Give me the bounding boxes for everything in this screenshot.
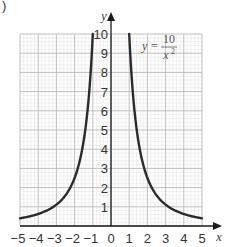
y-tick-label: 2: [101, 181, 108, 196]
y-tick-label: 5: [101, 123, 108, 138]
graph-reciprocal-square: −5−4−3−2−1012345 12345678910 y x y = 10 …: [0, 0, 229, 247]
equation-numerator: 10: [163, 32, 175, 46]
y-tick-labels: 12345678910: [94, 27, 108, 215]
y-tick-label: 7: [101, 85, 108, 100]
x-tick-label: 4: [180, 231, 187, 246]
x-tick-label: −1: [83, 231, 98, 246]
x-tick-label: 1: [126, 231, 133, 246]
equation-label: y = 10 x 2: [141, 32, 177, 62]
x-tick-label: 0: [107, 231, 114, 246]
y-tick-label: 8: [101, 65, 108, 80]
x-tick-label: −2: [65, 231, 80, 246]
x-tick-label: −3: [47, 231, 62, 246]
y-tick-label: 1: [101, 200, 108, 215]
y-tick-label: 3: [101, 161, 108, 176]
x-tick-label: 5: [198, 231, 205, 246]
part-label: ): [2, 0, 6, 13]
equation-equals: =: [151, 39, 158, 53]
axes: [20, 12, 222, 230]
x-tick-label: −4: [29, 231, 44, 246]
y-tick-label: 6: [101, 104, 108, 119]
y-tick-label: 4: [101, 142, 108, 157]
x-axis-label: x: [215, 230, 222, 244]
y-axis-arrow-icon: [107, 12, 115, 21]
y-axis-label: y: [100, 9, 107, 23]
equation-denominator-var: x: [162, 48, 169, 62]
x-tick-label: 2: [144, 231, 151, 246]
x-axis-arrow-icon: [213, 222, 222, 230]
y-tick-label: 9: [101, 46, 108, 61]
equation-denominator-exp: 2: [171, 47, 175, 56]
x-tick-label: −5: [11, 231, 26, 246]
y-tick-label: 10: [94, 27, 108, 42]
equation-lhs: y: [141, 39, 148, 53]
x-tick-label: 3: [162, 231, 169, 246]
x-tick-labels: −5−4−3−2−1012345: [11, 231, 206, 246]
